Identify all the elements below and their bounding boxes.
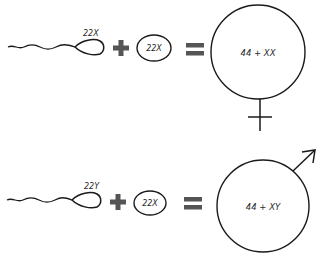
sperm-y: 22Y	[7, 182, 101, 208]
zygote-label: 44 + XX	[241, 48, 276, 58]
female-symbol-icon	[248, 99, 272, 131]
row-female: 22X 22X 44 + XX	[8, 5, 305, 131]
sperm-x: 22X	[8, 29, 104, 55]
zygote-female: 44 + XX	[211, 5, 305, 131]
male-symbol-icon	[293, 150, 315, 171]
equals-sign	[186, 43, 204, 56]
zygote-male: 44 + XY	[217, 150, 315, 252]
egg-label: 22X	[142, 199, 158, 208]
plus-sign	[110, 194, 126, 210]
egg-x: 22X	[134, 191, 166, 215]
sperm-tail	[7, 198, 72, 203]
equals-sign	[184, 197, 202, 210]
row-male: 22Y 22X 44 + XY	[7, 150, 315, 252]
sperm-tail	[8, 45, 75, 50]
plus-sign	[113, 40, 129, 56]
sperm-head	[75, 40, 104, 55]
sperm-head	[72, 193, 101, 208]
zygote-label: 44 + XY	[246, 202, 281, 212]
chromosome-diagram: 22X 22X 44 + XX 22Y	[0, 0, 320, 268]
egg-label: 22X	[146, 44, 162, 53]
sperm-label: 22X	[83, 29, 99, 38]
egg-x: 22X	[137, 35, 171, 61]
sperm-label: 22Y	[84, 182, 100, 191]
